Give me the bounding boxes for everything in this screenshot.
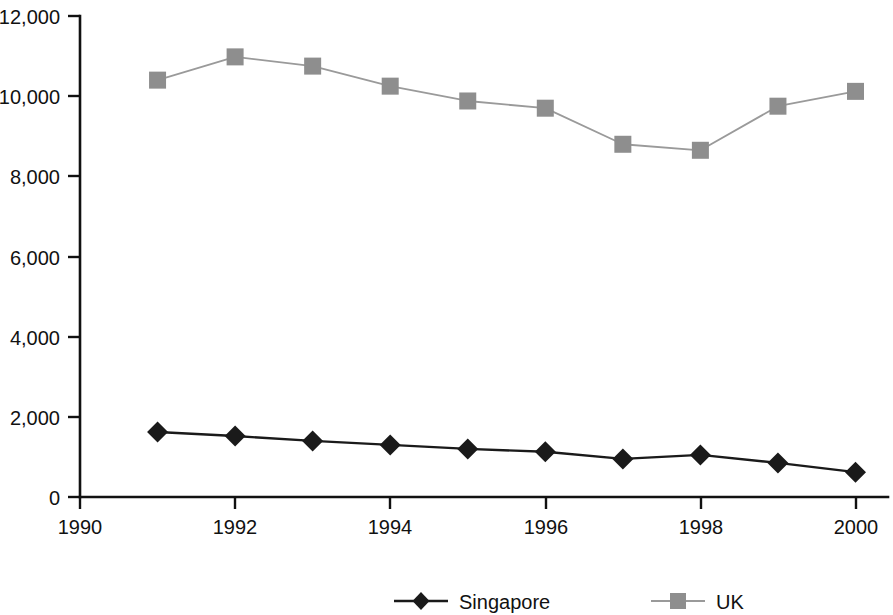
y-tick-label: 8,000 (10, 166, 60, 188)
data-point-singapore (845, 462, 866, 483)
data-point-uk (537, 100, 554, 117)
x-tick-label: 1992 (213, 516, 258, 538)
legend-entry-singapore[interactable]: Singapore (394, 591, 550, 613)
data-point-uk (847, 83, 864, 100)
data-point-singapore (767, 452, 788, 473)
data-point-uk (227, 48, 244, 65)
x-tick-label: 1994 (368, 516, 413, 538)
data-point-uk (459, 92, 476, 109)
y-tick-label: 0 (49, 487, 60, 509)
legend-entry-uk[interactable]: UK (651, 591, 744, 613)
x-axis-ticks (80, 497, 856, 509)
data-point-singapore (457, 438, 478, 459)
data-point-uk (769, 98, 786, 115)
series-line-uk (158, 57, 856, 150)
y-axis-tick-labels: 12,000 10,000 8,000 6,000 4,000 2,000 0 (0, 6, 60, 509)
data-point-singapore (225, 426, 246, 447)
data-point-singapore (147, 422, 168, 443)
data-point-uk (382, 78, 399, 95)
legend-label-uk: UK (716, 591, 744, 613)
series-markers-singapore (147, 422, 866, 483)
y-tick-label: 10,000 (0, 86, 60, 108)
x-tick-label: 1990 (58, 516, 103, 538)
data-point-uk (149, 72, 166, 89)
data-point-singapore (302, 430, 323, 451)
x-tick-label: 1998 (679, 516, 724, 538)
x-tick-label: 2000 (834, 516, 879, 538)
data-point-uk (304, 58, 321, 75)
data-point-singapore (535, 441, 556, 462)
y-axis-ticks (68, 16, 80, 497)
y-tick-label: 6,000 (10, 247, 60, 269)
data-point-uk (692, 142, 709, 159)
square-marker-icon (670, 593, 686, 609)
y-tick-label: 4,000 (10, 327, 60, 349)
line-chart: 12,000 10,000 8,000 6,000 4,000 2,000 0 … (0, 0, 893, 615)
chart-legend: Singapore UK (394, 591, 744, 613)
x-tick-label: 1996 (524, 516, 569, 538)
y-tick-label: 2,000 (10, 407, 60, 429)
legend-label-singapore: Singapore (459, 591, 550, 613)
x-axis-tick-labels: 1990 1992 1994 1996 1998 2000 (58, 516, 879, 538)
data-point-singapore (690, 444, 711, 465)
y-tick-label: 12,000 (0, 6, 60, 28)
series-line-singapore (158, 432, 856, 472)
chart-canvas: 12,000 10,000 8,000 6,000 4,000 2,000 0 … (0, 0, 893, 615)
data-point-singapore (380, 434, 401, 455)
series-markers-uk (149, 48, 864, 158)
diamond-marker-icon (413, 592, 430, 610)
data-point-singapore (612, 448, 633, 469)
data-point-uk (614, 136, 631, 153)
